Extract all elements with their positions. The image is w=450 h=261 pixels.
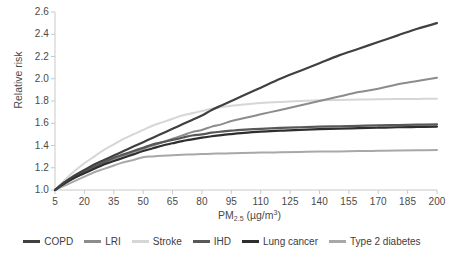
x-axis-title: PM2.5 (µg/m3)	[55, 209, 444, 221]
y-axis-tick-label: 2.6	[18, 6, 49, 17]
legend-swatch-icon	[193, 240, 210, 242]
legend-item-type-2-diabetes[interactable]: Type 2 diabetes	[329, 236, 421, 247]
y-axis-tick-label: 1.4	[18, 140, 49, 151]
legend-label: Lung cancer	[263, 236, 318, 247]
legend-label: Type 2 diabetes	[350, 236, 421, 247]
legend-item-lri[interactable]: LRI	[84, 236, 121, 247]
legend-label: IHD	[214, 236, 231, 247]
x-axis-title-unit-close: )	[277, 209, 281, 221]
legend-item-copd[interactable]: COPD	[23, 236, 73, 247]
legend-swatch-icon	[132, 240, 149, 242]
chart-legend: COPDLRIStrokeIHDLung cancerType 2 diabet…	[0, 236, 444, 247]
x-axis-title-subscript: 2.5	[234, 215, 244, 222]
x-axis-title-base: PM	[218, 209, 234, 221]
legend-label: LRI	[105, 236, 121, 247]
legend-swatch-icon	[329, 240, 346, 242]
legend-item-stroke[interactable]: Stroke	[132, 236, 182, 247]
series-layer	[55, 23, 437, 190]
legend-swatch-icon	[242, 240, 259, 242]
legend-swatch-icon	[23, 240, 40, 242]
legend-label: COPD	[44, 236, 73, 247]
series-line-copd	[55, 23, 437, 190]
y-axis-title: Relative risk	[12, 30, 24, 130]
legend-swatch-icon	[84, 240, 101, 242]
legend-label: Stroke	[153, 236, 182, 247]
series-line-stroke	[55, 99, 437, 190]
legend-item-ihd[interactable]: IHD	[193, 236, 231, 247]
y-axis-tick-label: 1.2	[18, 162, 49, 173]
legend-item-lung-cancer[interactable]: Lung cancer	[242, 236, 318, 247]
x-axis-title-unit: (µg/m	[246, 209, 273, 221]
y-axis-tick-label: 1.0	[18, 184, 49, 195]
x-axis-title-unit-exponent: 3	[274, 209, 278, 216]
x-axis-tick-label: 200	[420, 196, 450, 207]
